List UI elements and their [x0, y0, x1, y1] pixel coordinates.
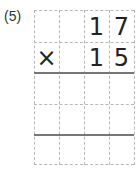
answer-cell[interactable]: [84, 135, 109, 166]
cell[interactable]: 1: [84, 42, 109, 73]
answer-cell[interactable]: [34, 73, 59, 104]
answer-cell[interactable]: [109, 104, 134, 135]
problem-number: (5): [4, 8, 21, 24]
cell[interactable]: [59, 42, 84, 73]
cell[interactable]: [34, 11, 59, 42]
cell[interactable]: 1: [84, 11, 109, 42]
answer-cell[interactable]: [34, 104, 59, 135]
answer-cell[interactable]: [59, 104, 84, 135]
answer-cell[interactable]: [84, 104, 109, 135]
answer-cell[interactable]: [109, 73, 134, 104]
cell[interactable]: 7: [109, 11, 134, 42]
cell[interactable]: [59, 11, 84, 42]
multiplication-grid: 1 7 × 1 5: [34, 10, 134, 165]
cell[interactable]: 5: [109, 42, 134, 73]
answer-cell[interactable]: [34, 135, 59, 166]
answer-cell[interactable]: [59, 135, 84, 166]
answer-cell[interactable]: [59, 73, 84, 104]
answer-cell[interactable]: [109, 135, 134, 166]
answer-cell[interactable]: [84, 73, 109, 104]
grid-line: [134, 10, 135, 165]
times-sign: ×: [34, 42, 59, 73]
